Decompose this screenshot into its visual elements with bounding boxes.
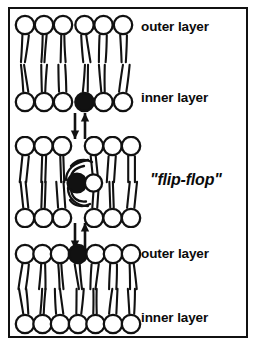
lipid-head <box>103 137 121 155</box>
lipid-tail <box>39 264 41 289</box>
lipid-head <box>103 209 121 227</box>
lipid-tail <box>58 65 59 92</box>
top-membrane-bilayer <box>14 14 142 114</box>
label-inner-layer-bottom: inner layer <box>141 311 208 325</box>
lipid-head <box>86 245 104 263</box>
lipid-tail <box>109 264 110 289</box>
lipid-head <box>34 137 52 155</box>
lipid-tail <box>134 182 137 208</box>
lipid-head <box>86 315 104 333</box>
marked-lipid-head <box>75 93 93 111</box>
lipid-tail <box>56 182 58 208</box>
lipid-tail <box>99 35 100 62</box>
lipid-head <box>85 137 103 155</box>
lipid-head <box>104 315 122 333</box>
lipid-tail <box>21 35 22 62</box>
lipid-head <box>34 209 52 227</box>
lipid-head <box>35 16 53 34</box>
lipid-tail <box>20 156 23 182</box>
lipid-head <box>54 16 72 34</box>
lipid-head <box>114 93 132 111</box>
lipid-tail <box>41 65 42 92</box>
lipid-tail <box>26 264 29 289</box>
lipid-tail <box>41 182 42 208</box>
lipid-head <box>35 93 53 111</box>
lipid-tail <box>113 182 114 208</box>
lipid-tail <box>114 156 116 182</box>
lipid-tail <box>116 289 117 314</box>
lipid-tail <box>134 264 137 289</box>
lipid-head <box>16 245 34 263</box>
lipid-tail <box>21 182 24 208</box>
lipid-tail <box>116 264 117 289</box>
lipid-head <box>16 137 34 155</box>
lipid-tail <box>81 289 84 314</box>
label-outer-layer-top: outer layer <box>141 20 209 34</box>
lipid-tail <box>55 289 56 314</box>
label-inner-layer-top: inner layer <box>141 91 208 105</box>
bottom-membrane-bilayer <box>14 243 142 335</box>
lipid-tail <box>19 289 23 314</box>
partner-lipid-head-transit <box>85 174 102 191</box>
lipid-tail <box>80 264 82 289</box>
lipid-head <box>51 245 69 263</box>
lipid-head <box>16 209 34 227</box>
lipid-head <box>114 16 132 34</box>
lipid-tail <box>45 182 46 208</box>
lipid-tail <box>63 182 65 208</box>
lipid-tail <box>99 65 101 92</box>
lipid-tail <box>61 35 62 62</box>
lipid-tail <box>95 264 98 289</box>
lipid-head <box>33 245 51 263</box>
lipid-tail <box>109 289 112 314</box>
lipid-head <box>122 209 140 227</box>
lipid-tail <box>65 65 66 92</box>
lipid-head <box>122 245 140 263</box>
lipid-head <box>94 93 112 111</box>
lipid-tail <box>40 289 42 314</box>
lipid-tail <box>134 289 135 314</box>
lipid-head <box>33 315 51 333</box>
lipid-tail <box>25 35 29 62</box>
lipid-head <box>16 16 34 34</box>
lipid-tail <box>127 182 130 208</box>
lipid-tail <box>107 156 109 182</box>
lipid-tail <box>75 264 79 289</box>
lipid-head <box>16 315 34 333</box>
lipid-tail <box>26 182 29 208</box>
flip-flop-figure: outer layer inner layer "flip-flop" oute… <box>0 0 258 347</box>
lipid-head <box>54 93 72 111</box>
lipid-tail <box>44 35 46 62</box>
lipid-tail <box>41 35 42 62</box>
marked-lipid-head-transit <box>68 174 87 193</box>
label-outer-layer-bottom: outer layer <box>141 247 209 261</box>
lipid-tail <box>119 65 123 92</box>
lipid-head <box>51 315 69 333</box>
label-flip-flop: "flip-flop" <box>150 172 222 188</box>
lipid-tail <box>120 35 121 62</box>
arrow-head-up <box>81 223 89 232</box>
lipid-tail <box>61 264 63 289</box>
lipid-tail <box>45 65 47 92</box>
lipid-tail <box>58 264 59 289</box>
lipid-tail <box>64 35 65 62</box>
lipid-tail <box>41 156 42 182</box>
lipid-tail <box>60 156 61 182</box>
lipid-tail <box>26 156 29 182</box>
middle-membrane-bilayer <box>14 136 142 228</box>
lipid-tail <box>86 35 90 62</box>
lipid-head <box>75 16 93 34</box>
arrow-head-up <box>81 113 89 122</box>
lipid-tail <box>26 289 28 314</box>
marked-lipid-head <box>69 245 87 263</box>
lipid-tail <box>24 65 28 92</box>
lipid-head <box>104 245 122 263</box>
lipid-tail <box>18 264 22 289</box>
lipid-head <box>69 315 87 333</box>
lipid-tail <box>63 156 64 182</box>
lipid-head <box>16 93 34 111</box>
lipid-tail <box>60 289 63 314</box>
lipid-tail <box>128 289 130 314</box>
lipid-head <box>122 315 140 333</box>
lipid-head <box>94 16 112 34</box>
